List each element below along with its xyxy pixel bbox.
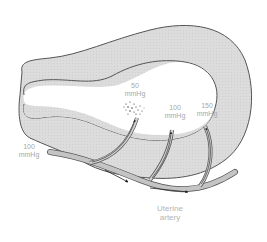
label-line2: artery [150, 213, 190, 222]
uterus-diagram [0, 0, 267, 242]
label-pressure-150: 150 mmHg [190, 102, 224, 118]
label-value: 50 [118, 82, 152, 90]
label-value: 100 [14, 143, 44, 151]
label-value: 150 [190, 102, 224, 110]
label-unit: mmHg [14, 151, 44, 159]
label-pressure-100: 100 mmHg [158, 104, 192, 120]
label-unit: mmHg [190, 110, 224, 118]
label-pressure-50: 50 mmHg [118, 82, 152, 98]
label-inlet-pressure: 100 mmHg [14, 143, 44, 159]
label-uterine-artery: Uterine artery [150, 204, 190, 222]
label-line1: Uterine [150, 204, 190, 213]
label-value: 100 [158, 104, 192, 112]
label-unit: mmHg [158, 112, 192, 120]
label-unit: mmHg [118, 90, 152, 98]
